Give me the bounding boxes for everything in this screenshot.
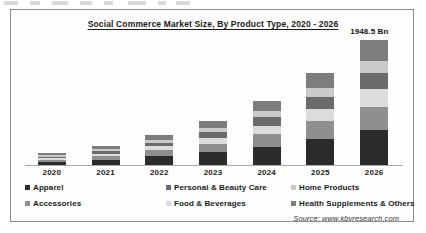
legend-row-1: Apparel Personal & Beauty Care Home Prod…: [25, 183, 411, 199]
chart-legend: Apparel Personal & Beauty Care Home Prod…: [25, 183, 411, 215]
bar-segment-2026-personal-beauty-care: [360, 73, 388, 89]
x-axis-label-2024: 2024: [245, 168, 289, 177]
bar-2023[interactable]: [199, 121, 227, 166]
bar-segment-2025-apparel: [306, 139, 334, 166]
legend-item-personal-beauty-care[interactable]: Personal & Beauty Care: [166, 183, 267, 192]
bar-segment-2025-health-supplements-others: [306, 73, 334, 88]
scan-artifact: [0, 0, 426, 8]
x-axis-label-2025: 2025: [298, 168, 342, 177]
bar-segment-2023-accessories: [199, 144, 227, 152]
legend-label-apparel: Apparel: [33, 183, 64, 192]
x-axis-label-2022: 2022: [137, 168, 181, 177]
data-label-2026: 1948.5 Bn: [350, 27, 388, 36]
legend-swatch-food-beverages: [166, 201, 171, 206]
x-axis-label-2026: 2026: [352, 168, 396, 177]
legend-label-accessories: Accessories: [33, 199, 81, 208]
legend-item-accessories[interactable]: Accessories: [25, 199, 81, 208]
bar-segment-2025-accessories: [306, 121, 334, 138]
legend-label-food-beverages: Food & Beverages: [174, 199, 246, 208]
bar-segment-2026-food-beverages: [360, 89, 388, 106]
bar-segment-2026-health-supplements-others: [360, 40, 388, 61]
x-axis-labels: 2020202120222023202420252026: [25, 168, 403, 182]
bar-segment-2025-food-beverages: [306, 109, 334, 122]
bar-segment-2024-accessories: [253, 134, 281, 146]
bar-2022[interactable]: [145, 135, 173, 166]
legend-label-health-supplements-others: Health Supplements & Others: [299, 199, 415, 208]
legend-label-home-products: Home Products: [299, 183, 359, 192]
bar-segment-2025-home-products: [306, 88, 334, 97]
chart-frame: Social Commerce Market Size, By Product …: [10, 9, 414, 222]
bar-2025[interactable]: [306, 73, 334, 166]
bar-segment-2024-food-beverages: [253, 126, 281, 135]
plot-area: [25, 40, 401, 166]
bar-segment-2026-accessories: [360, 107, 388, 130]
legend-swatch-apparel: [25, 185, 30, 190]
legend-item-food-beverages[interactable]: Food & Beverages: [166, 199, 246, 208]
bar-segment-2025-personal-beauty-care: [306, 97, 334, 109]
x-axis-label-2020: 2020: [30, 168, 74, 177]
legend-row-2: Accessories Food & Beverages Health Supp…: [25, 199, 411, 215]
bar-segment-2026-apparel: [360, 130, 388, 166]
bar-2026[interactable]: [360, 40, 388, 166]
bar-segment-2024-health-supplements-others: [253, 101, 281, 111]
bar-2021[interactable]: [92, 146, 120, 166]
x-axis-line: [25, 165, 403, 166]
source-attribution: Source: www.kbvresearch.com: [293, 214, 399, 223]
bar-segment-2024-apparel: [253, 147, 281, 166]
legend-swatch-home-products: [291, 185, 296, 190]
x-axis-label-2021: 2021: [84, 168, 128, 177]
legend-item-home-products[interactable]: Home Products: [291, 183, 359, 192]
bar-segment-2023-apparel: [199, 152, 227, 166]
bar-segment-2024-personal-beauty-care: [253, 117, 281, 125]
legend-item-apparel[interactable]: Apparel: [25, 183, 64, 192]
legend-swatch-accessories: [25, 201, 30, 206]
bar-segment-2023-health-supplements-others: [199, 121, 227, 128]
legend-swatch-health-supplements-others: [291, 201, 296, 206]
legend-label-personal-beauty-care: Personal & Beauty Care: [174, 183, 267, 192]
bar-2024[interactable]: [253, 101, 281, 166]
legend-swatch-personal-beauty-care: [166, 185, 171, 190]
legend-item-health-supplements-others[interactable]: Health Supplements & Others: [291, 199, 415, 208]
chart-title-text: Social Commerce Market Size, By Product …: [88, 19, 339, 29]
bar-segment-2026-home-products: [360, 61, 388, 73]
x-axis-label-2023: 2023: [191, 168, 235, 177]
